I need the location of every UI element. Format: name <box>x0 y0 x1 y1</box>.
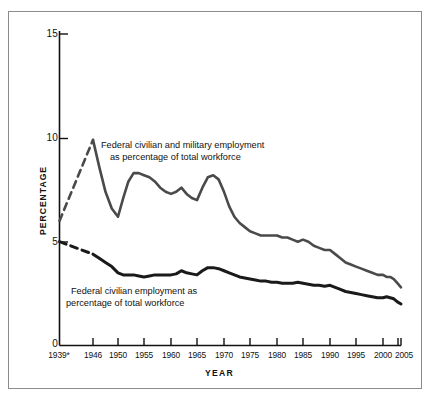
series-upper-line <box>93 140 401 287</box>
series-lower-line <box>93 254 401 304</box>
series-upper-dashed <box>60 140 94 221</box>
chart-figure: 15 10 5 0 PERCENTAGE 1939* 1946 1950 195… <box>0 0 432 401</box>
x-tick-marks <box>93 338 401 346</box>
plot-canvas <box>0 0 432 401</box>
series-lower-dashed <box>60 242 94 254</box>
